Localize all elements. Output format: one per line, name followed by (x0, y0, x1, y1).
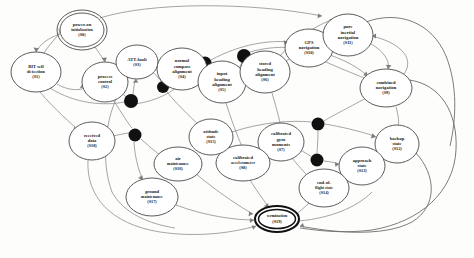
arrowhead (252, 226, 257, 230)
node-id-text: (S11) (343, 40, 353, 45)
state-node-s6[interactable]: storedheadingalignment(S6) (240, 51, 290, 93)
edge-j5-s17 (134, 142, 143, 180)
state-node-s9[interactable]: combinednavigation(S9) (360, 69, 412, 107)
arrowhead (34, 48, 40, 53)
edge-s11-s9 (371, 44, 388, 69)
state-transition-graph: power-oninitialization(S0)BIT selfdetect… (0, 0, 474, 258)
edge-s1-s18 (40, 92, 78, 130)
edge-s9-s12 (396, 107, 399, 125)
junction-point (129, 129, 142, 142)
node-id-text: (S0) (78, 32, 86, 37)
node-id-text: (S5) (218, 87, 226, 92)
node-layer: power-oninitialization(S0)BIT selfdetect… (11, 10, 419, 232)
state-node-s14[interactable]: end-of-flight state(S14) (299, 169, 349, 207)
node-id-text: (S10) (304, 50, 314, 55)
edge-s6-s7 (272, 93, 280, 123)
arrowhead (300, 223, 304, 228)
edge-j2-s15 (167, 92, 202, 128)
edge-s17-s19 (176, 205, 254, 220)
node-id-text: (S6) (261, 77, 269, 82)
node-id-text: (S1) (32, 74, 40, 79)
node-id-text: (S3) (133, 62, 141, 67)
junction-point (312, 118, 325, 131)
state-node-s11[interactable]: pureinertialnavigation(S11) (323, 14, 373, 56)
edge-s7-j7 (300, 150, 313, 158)
state-node-s16[interactable]: airmaintenance(S16) (154, 147, 202, 181)
edge-s1-s2 (57, 84, 84, 90)
edge-s9-s11-back (372, 36, 408, 74)
node-id-text: (S12) (392, 146, 402, 151)
state-node-s0[interactable]: power-oninitialization(S0) (57, 10, 107, 50)
arrowhead (371, 133, 376, 138)
edge-s8-s19 (250, 180, 269, 208)
state-node-s18[interactable]: receiveddata(S18) (69, 122, 115, 160)
node-id-text: (S13) (357, 168, 367, 173)
node-id-text: (S14) (319, 190, 329, 195)
arrowhead (250, 218, 254, 223)
state-node-s5[interactable]: inputheadingalignment(S5) (198, 61, 246, 103)
arrowhead (386, 65, 392, 69)
node-id-text: (S8) (239, 165, 247, 170)
state-node-s15[interactable]: attitudestate(S15) (189, 119, 233, 155)
junction-point (311, 154, 324, 167)
node-id-text: (S9) (382, 90, 390, 95)
arrowhead (318, 14, 323, 19)
node-id-text: (S16) (173, 166, 183, 171)
state-node-s1[interactable]: BIT selfdetection(S1) (11, 52, 61, 92)
node-id-text: (S17) (147, 199, 157, 204)
edge-j6-j7 (317, 131, 318, 153)
node-id-text: (S19) (272, 219, 282, 224)
node-id-text: (S2) (101, 84, 109, 89)
state-node-s3[interactable]: ATT-fault(S3) (116, 45, 158, 79)
edge-s9-j6 (324, 98, 366, 121)
edge-s18-j5 (113, 133, 129, 136)
state-node-s17[interactable]: groundmaintenance(S17) (126, 178, 178, 216)
state-node-s19[interactable]: termination(S19) (255, 206, 299, 232)
edge-s0-top-arc (100, 6, 322, 18)
junction-point (124, 94, 138, 108)
node-id-text: (S18) (87, 143, 97, 148)
edge-j6-s12 (325, 124, 376, 137)
node-id-text: (S7) (277, 147, 285, 152)
node-id-text: (S4) (178, 74, 186, 79)
state-diagram-canvas: power-oninitialization(S0)BIT selfdetect… (0, 0, 474, 258)
arrowhead (133, 79, 139, 83)
node-id-text: (S15) (206, 139, 216, 144)
